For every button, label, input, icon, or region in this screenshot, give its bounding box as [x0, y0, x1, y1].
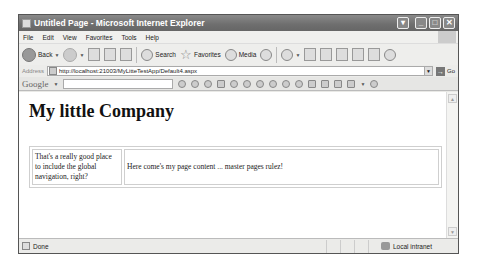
page-viewport: My little Company That's a really good p… — [19, 92, 446, 238]
ie-page-icon — [22, 19, 31, 28]
back-arrow-icon — [22, 48, 36, 62]
title-bar[interactable]: Untitled Page - Microsoft Internet Explo… — [19, 15, 458, 31]
vote-down-icon[interactable] — [295, 80, 303, 88]
favorites-star-icon: ☆ — [180, 49, 192, 61]
page-heading: My little Company — [29, 101, 174, 122]
highlight-icon[interactable] — [243, 80, 251, 88]
chevron-down-icon[interactable]: ▼ — [360, 81, 365, 87]
vertical-scrollbar[interactable]: ▲ ▼ — [446, 92, 458, 238]
status-bar: Done Local intranet — [19, 238, 458, 253]
standard-toolbar: Back ▼ ▼ Search ☆ Favorites Media ▼ — [19, 43, 458, 65]
edit-icon[interactable] — [320, 48, 332, 61]
next-icon[interactable] — [269, 80, 277, 88]
search-site-icon[interactable] — [191, 80, 199, 88]
status-pane — [340, 240, 354, 253]
print-icon[interactable] — [304, 48, 316, 61]
mail-button[interactable]: ▼ — [281, 49, 300, 61]
menu-file[interactable]: File — [23, 34, 33, 41]
home-icon[interactable] — [120, 48, 132, 61]
windows-logo-icon — [438, 31, 456, 43]
forward-arrow-icon — [63, 48, 77, 62]
vote-up-icon[interactable] — [282, 80, 290, 88]
mail-icon — [281, 49, 293, 61]
menu-edit[interactable]: Edit — [42, 34, 53, 41]
discuss-icon[interactable] — [336, 48, 348, 61]
media-icon — [225, 49, 237, 61]
menu-tools[interactable]: Tools — [121, 34, 136, 41]
page-info-icon[interactable] — [230, 80, 238, 88]
go-button[interactable]: → Go — [433, 67, 458, 76]
search-icon — [141, 49, 153, 61]
status-text: Done — [33, 243, 49, 250]
refresh-icon[interactable] — [104, 48, 116, 61]
news-icon[interactable] — [204, 80, 212, 88]
back-button[interactable]: Back ▼ — [22, 48, 59, 62]
browser-window: Untitled Page - Microsoft Internet Explo… — [18, 14, 459, 254]
page-icon — [49, 67, 57, 75]
zone-label: Local intranet — [393, 243, 432, 250]
menu-view[interactable]: View — [63, 34, 77, 41]
intranet-zone-icon — [381, 242, 390, 250]
messenger-icon[interactable] — [352, 48, 364, 61]
status-pane — [326, 240, 340, 253]
address-label: Address — [22, 68, 44, 74]
window-title: Untitled Page - Microsoft Internet Explo… — [34, 18, 205, 28]
media-button[interactable]: Media — [225, 49, 257, 61]
up-icon[interactable] — [256, 80, 264, 88]
chevron-down-icon[interactable]: ▼ — [79, 52, 84, 58]
navigation-cell: That's a really good place to include th… — [32, 149, 122, 185]
stop-icon[interactable] — [88, 48, 100, 61]
address-url: http://localhost:21003/MyLitteTestApp/De… — [59, 68, 197, 74]
scroll-up-icon[interactable]: ▲ — [448, 94, 457, 103]
users-icon[interactable] — [384, 49, 396, 61]
go-arrow-icon: → — [436, 67, 445, 76]
menu-bar: File Edit View Favorites Tools Help — [19, 31, 458, 43]
research-icon[interactable] — [368, 48, 380, 61]
status-pane — [354, 240, 368, 253]
history-icon[interactable] — [260, 49, 272, 61]
pencil-icon[interactable] — [370, 80, 378, 88]
blogger-icon[interactable] — [321, 80, 329, 88]
minimize-button[interactable]: _ — [415, 17, 427, 29]
chevron-down-icon[interactable]: ▼ — [54, 81, 59, 87]
window-menu-button[interactable]: ▾ — [397, 17, 409, 29]
google-search-icon[interactable] — [178, 80, 186, 88]
chevron-down-icon[interactable]: ▼ — [54, 52, 59, 58]
address-bar: Address http://localhost:21003/MyLitteTe… — [19, 65, 458, 77]
pagerank-icon[interactable] — [217, 80, 225, 88]
google-search-input[interactable] — [63, 79, 173, 89]
google-toolbar: Google ▼ ▼ — [19, 77, 458, 91]
address-dropdown-icon[interactable]: ▼ — [424, 66, 433, 76]
autofill-icon[interactable] — [334, 80, 342, 88]
layout-table: That's a really good place to include th… — [29, 146, 442, 188]
toolbar-divider — [276, 47, 277, 63]
menu-favorites[interactable]: Favorites — [86, 34, 113, 41]
page-done-icon — [22, 242, 30, 250]
scroll-down-icon[interactable]: ▼ — [448, 227, 457, 236]
forward-button[interactable]: ▼ — [63, 48, 84, 62]
popup-blocker-icon[interactable] — [308, 80, 316, 88]
favorites-button[interactable]: ☆ Favorites — [180, 49, 221, 61]
close-button[interactable]: ✕ — [443, 17, 455, 29]
search-button[interactable]: Search — [141, 49, 176, 61]
menu-help[interactable]: Help — [146, 34, 159, 41]
content-cell: Here come's my page content ... master p… — [124, 149, 439, 185]
address-input[interactable]: http://localhost:21003/MyLitteTestApp/De… — [47, 66, 425, 76]
toolbar-divider — [136, 47, 137, 63]
options-icon[interactable] — [347, 80, 355, 88]
google-logo[interactable]: Google — [22, 79, 49, 89]
maximize-button[interactable]: □ — [429, 17, 441, 29]
security-zone[interactable]: Local intranet — [368, 240, 458, 253]
chevron-down-icon[interactable]: ▼ — [295, 52, 300, 58]
